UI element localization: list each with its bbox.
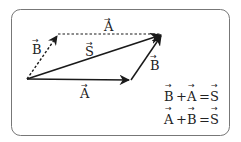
svg-text:=: = — [199, 89, 210, 104]
svg-text:B: B — [32, 42, 42, 57]
svg-text:S: S — [210, 112, 219, 127]
equation-a-plus-b: → → → A + B = S — [163, 104, 219, 127]
svg-text:A: A — [163, 112, 174, 127]
svg-text:B: B — [187, 112, 197, 127]
svg-text:A: A — [186, 89, 197, 104]
label-s-middle: → S — [85, 39, 94, 59]
svg-text:B: B — [164, 89, 174, 104]
svg-text:S: S — [210, 89, 219, 104]
svg-text:S: S — [85, 44, 94, 59]
svg-text:+: + — [176, 112, 187, 127]
svg-text:A: A — [79, 86, 90, 101]
vector-addition-diagram: → A → B → S → B → A → → → B + A = S → → … — [0, 0, 241, 142]
svg-text:+: + — [176, 89, 187, 104]
svg-text:=: = — [199, 112, 210, 127]
vector-a-solid — [27, 79, 129, 80]
svg-text:A: A — [103, 19, 114, 34]
svg-text:B: B — [150, 58, 160, 73]
